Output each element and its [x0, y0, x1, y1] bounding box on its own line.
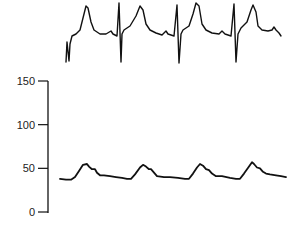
y-tick-label: 50 — [23, 162, 35, 174]
pressure-trace — [60, 162, 286, 180]
y-tick-label: 0 — [29, 206, 35, 218]
ecg-trace-group — [66, 3, 281, 63]
pressure-trace-group — [60, 162, 286, 180]
y-tick-label: 150 — [17, 75, 35, 87]
chart-canvas: 150100500 — [0, 0, 301, 226]
pressure-y-axis: 150100500 — [17, 75, 48, 218]
y-tick-label: 100 — [17, 119, 35, 131]
ecg-trace — [66, 3, 281, 63]
